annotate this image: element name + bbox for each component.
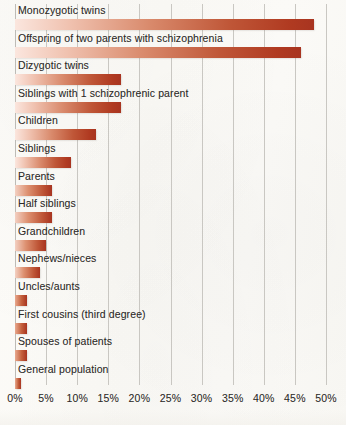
bar-track [15, 19, 314, 30]
bar-category-label: First cousins (third degree) [18, 308, 146, 321]
x-axis-tick-label: 50% [315, 392, 337, 404]
bar-category-label: Grandchildren [18, 225, 85, 238]
bar-track [15, 378, 21, 389]
bar-track [15, 212, 52, 223]
bar [15, 129, 96, 140]
chart-row: Half siblings [0, 197, 346, 226]
x-axis-tick-label: 25% [160, 392, 182, 404]
chart-row: Monozygotic twins [0, 4, 346, 33]
bar-category-label: General population [18, 363, 109, 376]
bar-category-label: Monozygotic twins [18, 4, 105, 17]
bar [15, 323, 27, 334]
schizophrenia-risk-chart: Monozygotic twinsOffspring of two parent… [0, 0, 346, 425]
chart-row: General population [0, 363, 346, 392]
chart-row: Nephews/nieces [0, 252, 346, 281]
chart-row: Spouses of patients [0, 335, 346, 364]
chart-row: Parents [0, 170, 346, 199]
bar-category-label: Spouses of patients [18, 335, 112, 348]
bar-category-label: Dizygotic twins [18, 59, 89, 72]
bar-category-label: Uncles/aunts [18, 280, 80, 293]
bar-category-label: Offspring of two parents with schizophre… [18, 32, 223, 45]
x-axis-tick-label: 20% [129, 392, 151, 404]
bar-track [15, 323, 27, 334]
bar [15, 47, 301, 58]
chart-row: Siblings with 1 schizophrenic parent [0, 87, 346, 116]
bar-track [15, 240, 46, 251]
bar-category-label: Siblings [18, 142, 56, 155]
bar [15, 185, 52, 196]
bar-category-label: Children [18, 114, 58, 127]
chart-row: Offspring of two parents with schizophre… [0, 32, 346, 61]
bar [15, 19, 314, 30]
bar-category-label: Half siblings [18, 197, 76, 210]
x-axis-tick-label: 0% [7, 392, 23, 404]
bar-track [15, 157, 71, 168]
bar-track [15, 102, 121, 113]
bar [15, 350, 27, 361]
bar [15, 102, 121, 113]
bar-track [15, 129, 96, 140]
bar-category-label: Parents [18, 170, 55, 183]
x-axis-tick-label: 15% [97, 392, 119, 404]
bar-track [15, 350, 27, 361]
bar [15, 378, 21, 389]
chart-row: Uncles/aunts [0, 280, 346, 309]
chart-row: Children [0, 114, 346, 143]
x-axis-tick-label: 45% [284, 392, 306, 404]
bar [15, 267, 40, 278]
x-axis-tick-label: 5% [38, 392, 54, 404]
x-axis-tick-label: 30% [191, 392, 213, 404]
bar-category-label: Nephews/nieces [18, 252, 96, 265]
x-axis-tick-label: 40% [253, 392, 275, 404]
bar-track [15, 185, 52, 196]
bar-track [15, 295, 27, 306]
x-axis-tick-label: 10% [66, 392, 88, 404]
bar-category-label: Siblings with 1 schizophrenic parent [18, 87, 189, 100]
bar-track [15, 47, 301, 58]
bar [15, 240, 46, 251]
chart-row: First cousins (third degree) [0, 308, 346, 337]
bar [15, 74, 121, 85]
bar [15, 212, 52, 223]
chart-row: Grandchildren [0, 225, 346, 254]
plot-area: Monozygotic twinsOffspring of two parent… [0, 0, 346, 425]
chart-row: Siblings [0, 142, 346, 171]
bar [15, 157, 71, 168]
chart-row: Dizygotic twins [0, 59, 346, 88]
bar-track [15, 74, 121, 85]
bar [15, 295, 27, 306]
bar-track [15, 267, 40, 278]
x-axis-tick-label: 35% [222, 392, 244, 404]
